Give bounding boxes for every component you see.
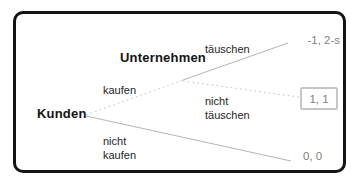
payoff-taeuschen: -1, 2-s: [290, 34, 340, 46]
branch-label-nicht-taeuschen-line2: täuschen: [205, 108, 250, 122]
payoff-nicht-taeuschen: 1, 1: [309, 93, 328, 105]
branch-label-nicht-kaufen-line1: nicht: [103, 134, 136, 148]
root-player-label: Kunden: [37, 106, 87, 121]
tree-branches: [0, 0, 351, 187]
payoff-nicht-kaufen: 0, 0: [303, 150, 322, 162]
game-tree-diagram: Kunden Unternehmen kaufen nicht kaufen t…: [0, 0, 351, 187]
payoff-box: 1, 1: [300, 87, 338, 110]
branch-label-nicht-taeuschen: nicht täuschen: [205, 94, 250, 122]
branch-label-taeuschen: täuschen: [205, 42, 250, 56]
branch-label-nicht-kaufen-line2: kaufen: [103, 148, 136, 162]
branch-label-nicht-kaufen: nicht kaufen: [103, 134, 136, 162]
branch-label-nicht-taeuschen-line1: nicht: [205, 94, 250, 108]
second-player-label: Unternehmen: [120, 50, 206, 65]
branch-label-kaufen: kaufen: [103, 83, 136, 97]
